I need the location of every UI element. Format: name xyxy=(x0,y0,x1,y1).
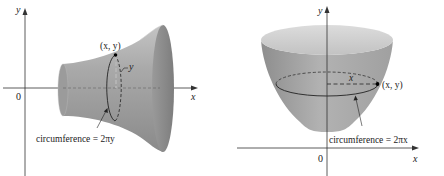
right-origin-label: 0 xyxy=(318,153,323,164)
left-origin-label: 0 xyxy=(16,91,21,102)
left-annotation: circumference = 2πy xyxy=(36,134,115,144)
right-x-axis-arrow-icon xyxy=(412,146,419,151)
left-figure: y x 0 (x, y) y circumference = 2πy xyxy=(3,4,198,176)
right-point-label: (x, y) xyxy=(382,80,403,91)
left-y-axis-arrow-icon xyxy=(23,8,28,15)
right-x-axis-label: x xyxy=(412,153,418,164)
left-point-label: (x, y) xyxy=(100,41,121,52)
right-point xyxy=(376,82,380,86)
right-figure: y x 0 (x, y) x circumference = 2πx xyxy=(237,5,419,176)
left-x-axis-label: x xyxy=(190,91,196,102)
left-y-axis-label: y xyxy=(15,4,21,15)
figure-canvas: y x 0 (x, y) y circumference = 2πy y x 0… xyxy=(0,0,444,176)
left-radius-label: y xyxy=(128,61,134,72)
left-x-axis-arrow-icon xyxy=(191,86,198,91)
left-point xyxy=(114,53,118,57)
right-y-axis-arrow-icon xyxy=(325,6,330,13)
right-y-axis-label: y xyxy=(317,5,323,16)
horn-right-end xyxy=(152,25,174,152)
right-annotation: circumference = 2πx xyxy=(329,135,408,145)
right-radius-label: x xyxy=(348,73,354,83)
horn-left-end xyxy=(58,64,68,116)
